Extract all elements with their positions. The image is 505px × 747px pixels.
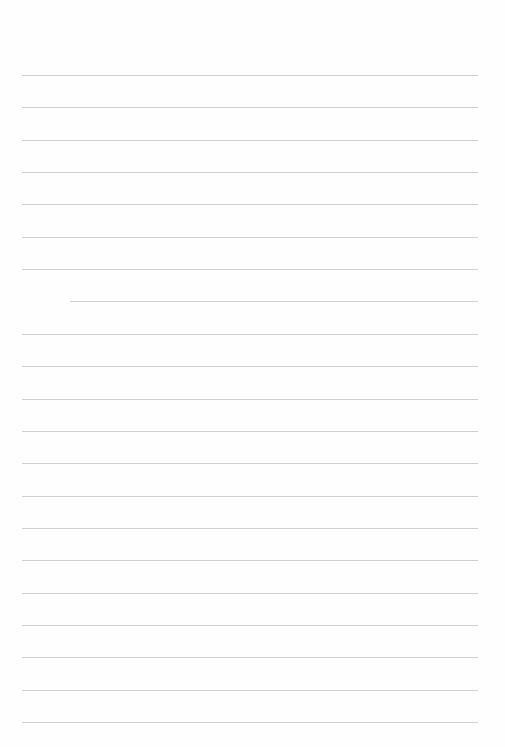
ruled-line xyxy=(22,560,478,561)
ruled-line xyxy=(22,237,478,238)
ruled-line xyxy=(22,107,478,108)
ruled-line xyxy=(22,204,478,205)
ruled-line xyxy=(22,657,478,658)
ruled-line xyxy=(22,140,478,141)
ruled-line xyxy=(22,690,478,691)
ruled-line xyxy=(22,722,478,723)
ruled-line xyxy=(22,593,478,594)
lined-paper-page xyxy=(0,0,505,747)
ruled-line xyxy=(22,172,478,173)
ruled-line xyxy=(22,431,478,432)
ruled-line xyxy=(70,301,478,302)
ruled-line xyxy=(22,463,478,464)
ruled-line xyxy=(22,399,478,400)
ruled-line xyxy=(22,269,478,270)
ruled-line xyxy=(22,528,478,529)
ruled-line xyxy=(22,334,478,335)
ruled-line xyxy=(22,625,478,626)
ruled-line xyxy=(22,75,478,76)
ruled-line xyxy=(22,496,478,497)
ruled-line xyxy=(22,366,478,367)
